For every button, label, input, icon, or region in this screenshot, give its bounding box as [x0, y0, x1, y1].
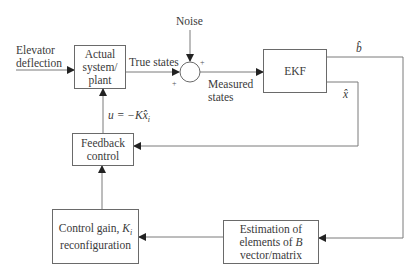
feedback-control-block: Feedback control [72, 133, 134, 166]
true-states-plus-sign: + [172, 79, 177, 88]
ekf-reconfiguration-block-diagram: Actual system/ plant EKF Feedback contro… [0, 0, 418, 278]
input-label: Elevator deflection [16, 44, 62, 70]
b-hat-path [319, 57, 403, 238]
measured-states-label: Measured states [208, 78, 253, 104]
ekf-block: EKF [263, 49, 327, 93]
gain-label-line1: Control gain, Ki [59, 222, 132, 239]
plant-block: Actual system/ plant [74, 45, 126, 89]
gain-subscript: i [130, 228, 132, 237]
estimation-block: Estimation of elements of B vector/matri… [223, 220, 319, 264]
feedback-label-2: control [81, 150, 125, 163]
plant-label-3: plant [82, 74, 117, 87]
plant-label-1: Actual [82, 48, 117, 61]
gain-label-line2: reconfiguration [59, 239, 132, 252]
estimation-label-3: vector/matrix [239, 249, 302, 262]
control-gain-block: Control gain, Ki reconfiguration [52, 209, 139, 264]
noise-plus-sign: + [200, 58, 205, 67]
input-label-2: deflection [16, 57, 62, 70]
measured-label-2: states [208, 91, 253, 104]
noise-label: Noise [176, 15, 203, 28]
control-law-text: u = −K [108, 109, 143, 121]
input-label-1: Elevator [16, 44, 62, 57]
gain-variable: K [122, 222, 130, 234]
control-law-subscript: i [148, 115, 150, 124]
estimation-label-2: elements of B [239, 236, 302, 249]
true-states-label: True states [129, 56, 179, 69]
control-law-label: u = −Kx̂i [108, 109, 150, 126]
b-hat-label: b̂ [356, 42, 362, 55]
x-hat-label: x̂ [343, 88, 348, 101]
estimation-variable: B [296, 236, 303, 248]
plant-label-2: system/ [82, 61, 117, 74]
summing-junction [180, 62, 200, 82]
gain-label-text: Control gain, [59, 222, 123, 234]
estimation-label-1: Estimation of [239, 223, 302, 236]
estimation-label-2-text: elements of [239, 236, 295, 248]
measured-label-1: Measured [208, 78, 253, 91]
feedback-label-1: Feedback [81, 137, 125, 150]
ekf-label: EKF [284, 65, 306, 78]
